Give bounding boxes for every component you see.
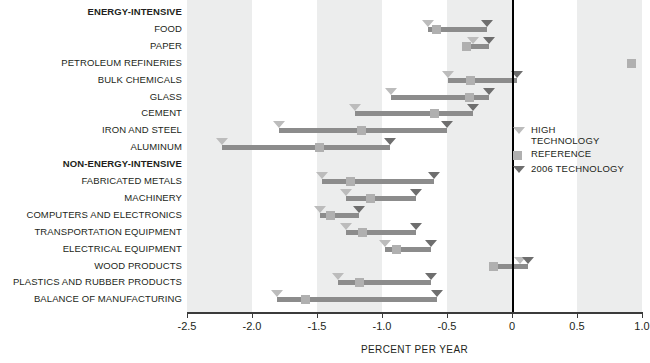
2006-technology-marker [431, 290, 443, 297]
high-technology-marker [273, 121, 285, 128]
reference-marker [357, 126, 366, 135]
2006-technology-marker [467, 104, 479, 111]
high-technology-marker [349, 104, 361, 111]
triangle-light-icon [513, 127, 525, 134]
x-tick [382, 312, 383, 318]
chart-row [187, 191, 642, 205]
x-tick [447, 312, 448, 318]
chart-row [187, 73, 642, 87]
category-label: TRANSPORTATION EQUIPMENT [34, 227, 182, 237]
category-label: ELECTRICAL EQUIPMENT [63, 244, 182, 254]
category-label: BULK CHEMICALS [98, 75, 182, 85]
chart-row [187, 292, 642, 306]
chart-row [187, 90, 642, 104]
2006-technology-marker [483, 88, 495, 95]
x-tick-label: -0.5 [438, 320, 457, 332]
x-tick [187, 312, 188, 318]
chart-row [187, 106, 642, 120]
reference-marker [366, 194, 375, 203]
chart-row [187, 225, 642, 239]
x-tick-label: 1.0 [634, 320, 649, 332]
chart-legend: HIGHTECHNOLOGY REFERENCE 2006 TECHNOLOGY [513, 124, 643, 178]
category-label: IRON AND STEEL [102, 125, 182, 135]
range-bar [322, 179, 434, 184]
x-tick-label: 0.5 [569, 320, 584, 332]
range-bar [222, 145, 390, 150]
x-tick-label: -1.5 [308, 320, 327, 332]
high-technology-marker [340, 189, 352, 196]
group-heading: NON-ENERGY-INTENSIVE [63, 159, 182, 169]
reference-marker [358, 228, 367, 237]
category-label: WOOD PRODUCTS [94, 261, 182, 271]
2006-technology-marker [425, 240, 437, 247]
high-technology-marker [316, 172, 328, 179]
x-tick-label: -2.0 [243, 320, 262, 332]
x-axis-title: PERCENT PER YEAR [187, 344, 642, 355]
chart-row [187, 259, 642, 273]
chart-row [187, 242, 642, 256]
range-bar [448, 78, 517, 83]
square-gray-icon [513, 151, 522, 160]
chart-row [187, 39, 642, 53]
legend-item-2006-technology[interactable]: 2006 TECHNOLOGY [513, 163, 643, 176]
reference-marker [326, 211, 335, 220]
range-bar [391, 95, 489, 100]
x-tick-label: -2.5 [178, 320, 197, 332]
range-bar [346, 230, 416, 235]
x-tick-label: -1.0 [373, 320, 392, 332]
2006-technology-marker [428, 172, 440, 179]
x-tick [512, 312, 513, 318]
2006-technology-marker [441, 121, 453, 128]
x-tick-label: 0 [509, 320, 515, 332]
category-label: PETROLEUM REFINERIES [61, 58, 182, 68]
chart-row [187, 208, 642, 222]
range-bar [355, 111, 473, 116]
range-bar [494, 264, 528, 269]
x-tick [252, 312, 253, 318]
chart-row [187, 56, 642, 70]
category-label: ALUMINUM [131, 142, 182, 152]
category-label: FABRICATED METALS [81, 176, 182, 186]
2006-technology-marker [410, 189, 422, 196]
2006-technology-marker [353, 206, 365, 213]
legend-label-high-technology: HIGHTECHNOLOGY [531, 124, 600, 146]
range-bar [346, 196, 416, 201]
2006-technology-marker [483, 37, 495, 44]
high-technology-marker [216, 138, 228, 145]
reference-marker [466, 76, 475, 85]
2006-technology-marker [384, 138, 396, 145]
reference-marker [430, 109, 439, 118]
x-tick [577, 312, 578, 318]
high-technology-marker [314, 206, 326, 213]
category-label-column: ENERGY-INTENSIVEFOODPAPERPETROLEUM REFIN… [0, 0, 186, 312]
category-label: COMPUTERS AND ELECTRONICS [26, 210, 182, 220]
category-label: FOOD [154, 24, 182, 34]
category-label: GLASS [150, 92, 182, 102]
chart-row [187, 275, 642, 289]
2006-technology-marker [425, 273, 437, 280]
high-technology-marker [271, 290, 283, 297]
high-technology-marker [332, 273, 344, 280]
x-axis-line [187, 312, 642, 314]
range-bar [338, 280, 432, 285]
legend-label-reference: REFERENCE [531, 148, 591, 159]
group-heading: ENERGY-INTENSIVE [87, 7, 182, 17]
2006-technology-marker [481, 20, 493, 27]
high-technology-marker [379, 240, 391, 247]
2006-technology-marker [410, 223, 422, 230]
category-label: BALANCE OF MANUFACTURING [34, 294, 182, 304]
legend-item-high-technology[interactable]: HIGHTECHNOLOGY [513, 124, 643, 137]
x-tick [642, 312, 643, 318]
category-label: PLASTICS AND RUBBER PRODUCTS [13, 277, 182, 287]
reference-marker [355, 278, 364, 287]
x-tick [317, 312, 318, 318]
chart-row [187, 22, 642, 36]
category-label: PAPER [150, 41, 182, 51]
2006-technology-marker [522, 257, 534, 264]
triangle-dark-icon [513, 166, 525, 173]
category-label: MACHINERY [124, 193, 182, 203]
reference-marker [465, 93, 474, 102]
reference-marker [346, 177, 355, 186]
legend-item-reference[interactable]: REFERENCE [513, 148, 643, 161]
reference-marker [301, 295, 310, 304]
